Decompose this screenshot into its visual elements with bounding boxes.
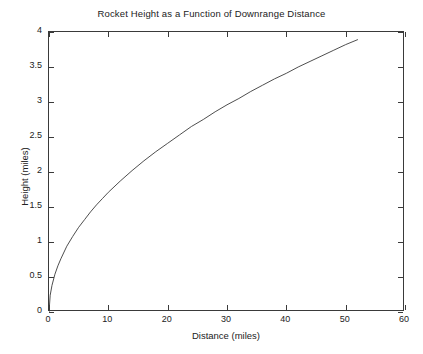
- y-axis-tick: [49, 137, 54, 138]
- chart-title: Rocket Height as a Function of Downrange…: [0, 8, 423, 19]
- x-axis-tick: [286, 32, 287, 37]
- y-axis-tick: [398, 102, 403, 103]
- y-axis-tick: [398, 312, 403, 313]
- x-axis-label: Distance (miles): [48, 330, 404, 341]
- x-tick-label: 30: [206, 314, 246, 324]
- y-axis-tick: [49, 32, 54, 33]
- y-axis-tick: [49, 242, 54, 243]
- x-axis-tick: [346, 32, 347, 37]
- y-axis-tick: [49, 312, 54, 313]
- x-tick-label: 0: [28, 314, 68, 324]
- x-tick-label: 40: [265, 314, 305, 324]
- y-tick-label: 4: [8, 25, 42, 35]
- figure-canvas: Rocket Height as a Function of Downrange…: [0, 0, 423, 354]
- y-tick-label: 0: [8, 305, 42, 315]
- x-tick-label: 10: [87, 314, 127, 324]
- y-axis-tick: [398, 67, 403, 68]
- x-tick-label: 50: [325, 314, 365, 324]
- x-tick-label: 60: [384, 314, 423, 324]
- y-axis-tick: [398, 207, 403, 208]
- x-axis-tick: [227, 305, 228, 310]
- y-axis-tick: [49, 172, 54, 173]
- x-axis-tick: [168, 32, 169, 37]
- x-axis-tick: [405, 32, 406, 37]
- x-axis-tick: [286, 305, 287, 310]
- rocket-trajectory-line: [49, 40, 358, 312]
- y-axis-tick: [49, 277, 54, 278]
- y-axis-tick: [398, 277, 403, 278]
- y-tick-label: 3: [8, 95, 42, 105]
- x-axis-tick: [49, 305, 50, 310]
- x-axis-tick: [405, 305, 406, 310]
- y-axis-tick: [398, 32, 403, 33]
- y-axis-label: Height (miles): [19, 107, 30, 247]
- x-axis-tick: [346, 305, 347, 310]
- y-axis-tick: [49, 102, 54, 103]
- y-tick-label: 3.5: [8, 60, 42, 70]
- y-axis-tick: [49, 207, 54, 208]
- y-axis-tick: [398, 172, 403, 173]
- data-curve-svg: [49, 32, 405, 312]
- x-axis-tick: [108, 305, 109, 310]
- x-axis-tick: [108, 32, 109, 37]
- x-axis-tick: [227, 32, 228, 37]
- x-axis-tick: [168, 305, 169, 310]
- y-axis-tick: [49, 67, 54, 68]
- y-axis-tick: [398, 242, 403, 243]
- x-tick-label: 20: [147, 314, 187, 324]
- y-tick-label: 0.5: [8, 270, 42, 280]
- plot-area: [48, 31, 404, 311]
- y-axis-tick: [398, 137, 403, 138]
